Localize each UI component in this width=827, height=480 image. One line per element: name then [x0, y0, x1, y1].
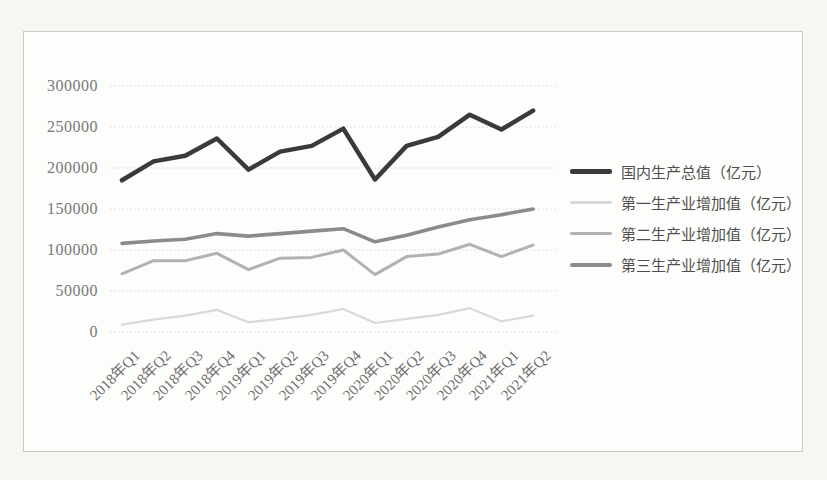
legend-line-swatch: [570, 201, 612, 204]
legend-label: 国内生产总值（亿元）: [621, 161, 771, 182]
legend-label: 第二生产业增加值（亿元）: [621, 223, 801, 244]
legend-item: 国内生产总值（亿元）: [570, 156, 820, 187]
series-line-1: [122, 308, 533, 324]
legend-label: 第一生产业增加值（亿元）: [621, 192, 801, 213]
legend-line-swatch: [570, 232, 612, 235]
scanned-page: 050000100000150000200000250000300000 201…: [0, 0, 827, 480]
y-tick-label: 250000: [28, 119, 98, 135]
legend-label: 第三生产业增加值（亿元）: [621, 254, 801, 275]
legend-line-swatch: [570, 263, 612, 267]
y-tick-label: 200000: [28, 160, 98, 176]
series-line-3: [122, 209, 533, 243]
y-tick-label: 150000: [28, 201, 98, 217]
legend-item: 第一生产业增加值（亿元）: [570, 187, 820, 218]
chart-legend: 国内生产总值（亿元）第一生产业增加值（亿元）第二生产业增加值（亿元）第三生产业增…: [570, 156, 820, 280]
legend-item: 第三生产业增加值（亿元）: [570, 249, 820, 280]
y-tick-label: 100000: [28, 242, 98, 258]
legend-line-swatch: [570, 169, 612, 174]
y-tick-label: 300000: [28, 78, 98, 94]
legend-item: 第二生产业增加值（亿元）: [570, 218, 820, 249]
series-line-0: [122, 111, 533, 181]
y-tick-label: 0: [28, 324, 98, 340]
y-tick-label: 50000: [28, 283, 98, 299]
series-line-2: [122, 244, 533, 274]
